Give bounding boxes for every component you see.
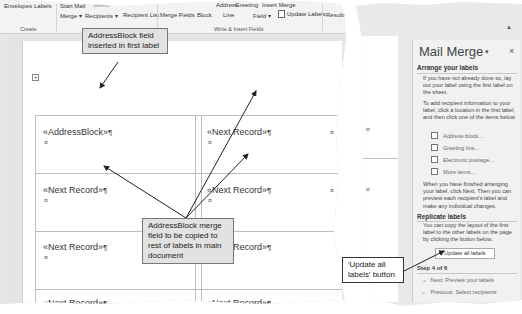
- arrange-instructions-1: If you have not already done so, lay out…: [423, 75, 517, 97]
- address-block-field: «AddressBlock»: [43, 127, 108, 137]
- start-mail-merge-button[interactable]: Merge ▾: [60, 12, 82, 19]
- callout-first-label: AddressBlock field inserted in first lab…: [82, 28, 168, 54]
- pilcrow-mark: ¶: [103, 299, 107, 308]
- address-block-icon: [431, 132, 438, 139]
- electronic-postage-link-text: Electronic postage...: [443, 157, 494, 163]
- pane-close-icon[interactable]: ×: [509, 46, 514, 56]
- address-block-link-text: Address block...: [443, 133, 483, 139]
- pilcrow-mark: ¶: [267, 243, 271, 252]
- update-labels-button[interactable]: Update Labels: [278, 10, 326, 18]
- table-col-border: [35, 115, 36, 314]
- end-of-row-mark: ¤: [366, 126, 370, 133]
- end-of-cell-mark: ¤: [208, 139, 212, 146]
- arrow-left-icon: ←: [421, 289, 427, 295]
- pane-title: Mail Merge: [419, 44, 483, 59]
- label-cell-r3c1[interactable]: «Next Record»¶: [43, 242, 107, 252]
- end-of-cell-mark: ¤: [44, 139, 48, 146]
- pilcrow-mark: ¶: [267, 128, 271, 137]
- table-move-handle-icon[interactable]: +: [32, 74, 39, 81]
- pilcrow-mark: ¶: [108, 128, 112, 137]
- next-record-field: «Next Record»: [43, 298, 103, 308]
- previous-step-text: Previous: Select recipients: [431, 289, 497, 295]
- electronic-postage-link[interactable]: Electronic postage...: [431, 156, 494, 163]
- mail-merge-task-pane: Mail Merge ▾ × Arrange your labels If yo…: [412, 40, 520, 302]
- highlight-merge-fields-button[interactable]: Merge Fields: [160, 12, 195, 18]
- electronic-postage-icon: [431, 156, 438, 163]
- pilcrow-mark: ¶: [103, 243, 107, 252]
- insert-merge-field-button[interactable]: Field ▾: [253, 12, 271, 19]
- table-row-border: [362, 158, 398, 159]
- arrange-instructions-3: When you have finished arranging your la…: [423, 181, 517, 210]
- document-canvas: «AddressBlock»¶ ¤ «Next Record»¶ ¤ «Next…: [8, 35, 338, 305]
- table-row-border: [35, 289, 343, 290]
- ribbon-separator: [56, 4, 57, 32]
- more-items-link[interactable]: More items...: [431, 168, 475, 175]
- start-mail-merge-label[interactable]: Start Mail: [60, 3, 85, 9]
- pane-options-dropdown-icon[interactable]: ▾: [485, 48, 489, 56]
- select-recipients-button[interactable]: Recipients ▾: [85, 12, 118, 19]
- section-divider: [417, 273, 517, 274]
- more-items-link-text: More items...: [443, 169, 475, 175]
- envelopes-button[interactable]: Envelopes: [4, 3, 32, 9]
- address-block-link[interactable]: Address block...: [431, 132, 483, 139]
- document-page[interactable]: «AddressBlock»¶ ¤ «Next Record»¶ ¤ «Next…: [22, 41, 342, 311]
- group-label-create: Create: [20, 26, 37, 32]
- arrow-right-icon: →: [421, 277, 427, 283]
- greeting-line-icon: [431, 144, 438, 151]
- label-cell-r1c2[interactable]: «Next Record»¶: [207, 127, 271, 137]
- edit-recipient-list-button[interactable]: Recipient List: [123, 12, 159, 18]
- next-record-field: «Next Record»: [43, 185, 103, 195]
- next-step-text: Next: Preview your labels: [431, 277, 494, 283]
- address-block-button[interactable]: Block: [197, 12, 212, 18]
- label-cell-r4c2[interactable]: «Next Record»¶: [207, 298, 271, 308]
- arrange-instructions-2: To add recipient information to your lab…: [423, 100, 517, 122]
- table-row-border: [35, 115, 343, 116]
- greeting-line-label[interactable]: Greeting: [235, 2, 258, 8]
- next-step-link[interactable]: →Next: Preview your labels: [421, 277, 494, 283]
- next-record-field: «Next Record»: [207, 127, 267, 137]
- label-cell-r2c1[interactable]: «Next Record»¶: [43, 185, 107, 195]
- table-col-border: [195, 115, 196, 314]
- pilcrow-mark: ¶: [103, 186, 107, 195]
- update-labels-icon: [278, 10, 285, 18]
- label-cell-r1c1[interactable]: «AddressBlock»¶: [43, 127, 112, 137]
- previous-step-link[interactable]: ←Previous: Select recipients: [421, 289, 497, 295]
- next-record-field: «Next Record»: [207, 185, 267, 195]
- greeting-line-link[interactable]: Greeting line...: [431, 144, 479, 151]
- more-items-icon: [431, 168, 438, 175]
- end-of-cell-mark: ¤: [44, 197, 48, 204]
- section-heading-arrange: Arrange your labels: [417, 64, 478, 71]
- end-of-row-mark: ¤: [330, 129, 334, 136]
- end-of-cell-mark: ¤: [44, 254, 48, 261]
- pilcrow-mark: ¶: [267, 186, 271, 195]
- ribbon-mailings: Envelopes Labels Start Mail Select Merge…: [0, 0, 352, 34]
- label-cell-r4c1[interactable]: «Next Record»¶: [43, 298, 107, 308]
- table-row-border: [35, 173, 343, 174]
- section-heading-replicate: Replicate labels: [417, 213, 466, 220]
- insert-merge-field-label[interactable]: Insert Merge: [262, 2, 296, 8]
- end-of-cell-mark: ¤: [208, 197, 212, 204]
- end-of-row-mark: ¤: [330, 187, 334, 194]
- ribbon-separator: [322, 4, 323, 32]
- results-group[interactable]: Results: [326, 12, 346, 18]
- pilcrow-mark: ¶: [267, 299, 271, 308]
- callout-copied-field: AddressBlock merge field to be copied to…: [142, 218, 234, 264]
- step-indicator: Step 4 of 6: [417, 265, 447, 271]
- greeting-line-link-text: Greeting line...: [443, 145, 479, 151]
- ribbon-collapse-icon[interactable]: ▲: [506, 24, 512, 30]
- section-divider: [417, 73, 517, 74]
- greeting-line-button[interactable]: Line: [223, 12, 234, 18]
- replicate-instructions: You can copy the layout of the first lab…: [423, 222, 517, 244]
- update-all-labels-button[interactable]: Update all labels: [435, 248, 495, 259]
- labels-button[interactable]: Labels: [34, 3, 52, 9]
- callout-update-button: 'Update all labels' button: [342, 257, 404, 283]
- label-cell-r2c2[interactable]: «Next Record»¶: [207, 185, 271, 195]
- table-col-border: [201, 115, 202, 314]
- group-label-write-insert: Write & Insert Fields: [214, 26, 263, 32]
- next-record-field: «Next Record»: [43, 242, 103, 252]
- next-record-field: «Next Record»: [207, 298, 267, 308]
- end-of-row-mark: ¤: [366, 186, 370, 193]
- update-labels-text: Update Labels: [287, 11, 326, 17]
- select-recipients-label[interactable]: Select: [93, 2, 110, 8]
